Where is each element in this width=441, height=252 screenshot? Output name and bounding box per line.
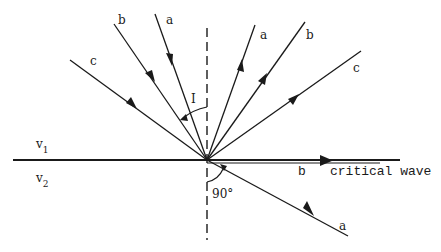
label-reflected-c: c <box>353 61 360 75</box>
incident-ray-c <box>70 60 207 160</box>
arrow-icon <box>237 59 244 72</box>
arrow-icon <box>258 73 267 85</box>
label-angle-i: I <box>191 92 196 106</box>
incident-ray-a <box>155 14 207 160</box>
label-critical-b: b <box>298 164 306 179</box>
reflected-ray-a <box>207 25 255 160</box>
reflected-ray-b <box>207 22 305 160</box>
label-layer-v1: v1 <box>35 137 49 155</box>
label-reflected-a: a <box>260 28 267 42</box>
label-refracted-a: a <box>339 219 346 233</box>
label-incident-c: c <box>90 54 97 68</box>
arrow-icon <box>166 53 173 66</box>
arrow-icon <box>303 201 314 216</box>
arrow-icon <box>126 97 137 109</box>
label-right-angle: 90° <box>212 187 233 201</box>
label-incident-b: b <box>118 13 126 27</box>
reflected-ray-c <box>207 51 361 160</box>
label-critical-wave: critical wave <box>330 164 431 179</box>
label-incident-a: a <box>166 13 173 27</box>
arrow-icon <box>288 94 299 105</box>
right-angle-arc <box>207 169 223 182</box>
label-layer-v2: v2 <box>35 171 49 189</box>
label-reflected-b: b <box>306 28 314 42</box>
refraction-diagram: b a c I a b c v1 v2 b critical wave 90° … <box>0 0 441 252</box>
